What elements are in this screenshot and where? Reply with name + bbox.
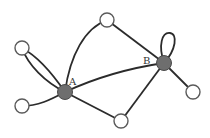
node-top-left <box>15 41 29 55</box>
edges <box>22 20 193 121</box>
label-b: B <box>143 55 150 66</box>
label-a: A <box>68 76 77 87</box>
edge-a-topleft-1 <box>22 48 65 92</box>
edge-a-topleft-2 <box>22 48 65 92</box>
node-bottom-left <box>15 99 29 113</box>
node-right <box>186 85 200 99</box>
graph-diagram: A B <box>0 0 210 138</box>
node-bottom <box>114 114 128 128</box>
edge-top-b <box>107 20 164 63</box>
edge-a-b <box>65 63 164 92</box>
edge-b-bottom <box>121 63 164 121</box>
node-b <box>157 56 172 71</box>
node-top <box>100 13 114 27</box>
edge-a-bottom <box>65 92 121 121</box>
